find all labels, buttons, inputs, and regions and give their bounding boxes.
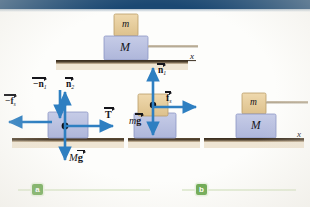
caption-badge-b: b <box>196 184 207 195</box>
b-axis-label: x <box>297 130 301 139</box>
fbd-large-ground-base <box>12 142 124 148</box>
label-friction-fs-small-sub: s <box>169 98 171 104</box>
top-ground-base <box>56 64 188 70</box>
label-normal-n1-small-sub: 1 <box>163 70 166 76</box>
label-normal-down-n1-text: −n <box>33 80 44 90</box>
label-weight-mg-small-text: g <box>136 116 141 126</box>
caption-badge-a: a <box>32 184 43 195</box>
label-friction-fs-small-text: f <box>166 94 169 104</box>
label-normal-n1-small: n1 <box>158 66 166 77</box>
b-block-large-label: M <box>251 120 261 132</box>
label-normal-n1-small-text: n <box>158 66 163 76</box>
label-friction-neg-fs-text: −f <box>5 97 14 107</box>
label-normal-down-n1-sub: 1 <box>44 84 47 90</box>
label-tension-T-text: T <box>105 110 112 120</box>
label-friction-fs-small: fs <box>166 94 171 105</box>
top-block-large-label: M <box>120 41 130 53</box>
label-normal-down-n1: −n1 <box>33 80 47 91</box>
label-normal-up-n2-sub: 2 <box>71 84 74 90</box>
label-tension-T: T <box>105 110 112 120</box>
label-weight-Mg: Mg <box>69 153 83 164</box>
top-rope <box>148 45 198 47</box>
figure-canvas: m M x −n1 n2 −fs T Mg n1 fs mg m M x a b <box>0 0 310 207</box>
label-weight-Mg-text: g <box>78 153 83 164</box>
label-friction-neg-fs: −fs <box>5 97 16 108</box>
fbd-small-ground-base <box>128 142 200 148</box>
fbd-large-ground <box>12 138 124 142</box>
label-weight-Mg-prefix: M <box>69 152 78 163</box>
label-normal-up-n2: n2 <box>66 80 74 91</box>
label-weight-mg-small-prefix: m <box>129 115 136 126</box>
b-rope <box>266 101 308 103</box>
top-block-small-label: m <box>122 19 129 29</box>
fbd-small-block <box>128 68 200 148</box>
diagram-vector-layer <box>0 0 310 207</box>
top-axis-label: x <box>190 52 194 61</box>
fbd-small-ground <box>128 138 200 142</box>
label-weight-mg-small: mg <box>129 116 141 126</box>
b-block-small-label: m <box>250 98 257 108</box>
label-normal-up-n2-text: n <box>66 80 71 90</box>
b-ground-base <box>204 142 304 148</box>
fbd-large-block <box>9 90 124 160</box>
